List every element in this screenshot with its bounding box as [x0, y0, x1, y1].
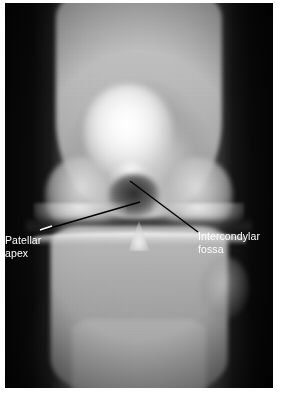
leader-line-patellar-apex [40, 202, 140, 231]
label-patellar-apex: Patellar apex [5, 234, 41, 259]
radiograph-figure: Patellar apex Intercondylar fossa [0, 0, 281, 393]
leader-line-intercondylar-fossa [130, 181, 198, 232]
annotation-overlay [0, 0, 281, 393]
label-intercondylar-fossa: Intercondylar fossa [198, 230, 260, 255]
